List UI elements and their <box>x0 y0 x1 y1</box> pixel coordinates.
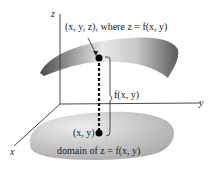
point-2d-label: (x, y) <box>73 127 95 139</box>
diagram-canvas: z y x (x, y, z), where z = f(x, y) f(x, … <box>0 0 216 172</box>
height-label: f(x, y) <box>114 89 139 101</box>
z-axis-label: z <box>50 8 55 19</box>
point-3d-label: (x, y, z), where z = f(x, y) <box>65 21 167 33</box>
y-axis-label: y <box>198 97 204 108</box>
domain-label: domain of z = f(x, y) <box>57 145 140 157</box>
point-2d <box>96 130 103 137</box>
x-axis-label: x <box>9 146 15 157</box>
y-axis <box>60 103 200 104</box>
point-3d <box>96 55 103 62</box>
function-graph-diagram: z y x (x, y, z), where z = f(x, y) f(x, … <box>0 0 216 172</box>
